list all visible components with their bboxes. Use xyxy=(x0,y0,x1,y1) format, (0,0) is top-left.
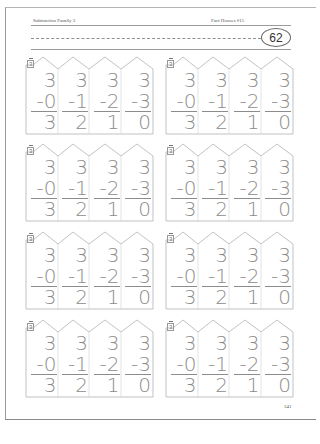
house-family-number: 3 xyxy=(167,235,174,243)
difference: 2 xyxy=(75,112,88,133)
house-family-number: 3 xyxy=(167,60,174,68)
house-family-number: 3 xyxy=(167,147,174,155)
difference: 3 xyxy=(184,287,197,308)
subtrahend: -1 xyxy=(202,266,228,287)
subtrahend: -3 xyxy=(265,91,291,112)
minuend: 3 xyxy=(75,245,88,266)
house-columns: 3 -0 3 3 -1 2 3 -2 1 3 -3 0 xyxy=(169,70,295,134)
house-family-tag: 3 xyxy=(27,145,34,155)
tag-bar-icon xyxy=(169,233,173,234)
subtraction-problem: 3 -0 3 xyxy=(29,333,61,397)
difference: 3 xyxy=(184,375,197,396)
page-number: 341 xyxy=(284,404,292,409)
subtrahend: -1 xyxy=(62,266,88,287)
subtraction-problem: 3 -2 1 xyxy=(232,245,264,309)
minuend: 3 xyxy=(247,70,260,91)
difference: 3 xyxy=(44,112,57,133)
tag-bar-icon xyxy=(29,145,33,146)
minuend: 3 xyxy=(184,70,197,91)
subtrahend: -0 xyxy=(171,354,197,375)
subtrahend: -0 xyxy=(31,178,57,199)
difference: 1 xyxy=(247,287,260,308)
house-columns: 3 -0 3 3 -1 2 3 -2 1 3 -3 0 xyxy=(169,245,295,309)
difference: 1 xyxy=(247,375,260,396)
subtrahend: -2 xyxy=(94,178,120,199)
minuend: 3 xyxy=(107,333,120,354)
fact-house: 3 3 -0 3 3 -1 2 3 -2 1 xyxy=(165,142,297,222)
difference: 2 xyxy=(215,287,228,308)
subtraction-problem: 3 -2 1 xyxy=(92,245,124,309)
house-family-number: 3 xyxy=(27,60,34,68)
minuend: 3 xyxy=(107,70,120,91)
worksheet-set-title: Fact Houses #15 xyxy=(211,18,244,23)
difference: 3 xyxy=(184,199,197,220)
minuend: 3 xyxy=(215,333,228,354)
difference: 0 xyxy=(138,112,151,133)
subtrahend: -2 xyxy=(94,266,120,287)
subtrahend: -3 xyxy=(125,266,151,287)
house-columns: 3 -0 3 3 -1 2 3 -2 1 3 -3 0 xyxy=(169,157,295,221)
subtraction-problem: 3 -0 3 xyxy=(169,157,201,221)
difference: 3 xyxy=(184,112,197,133)
subtraction-problem: 3 -1 2 xyxy=(61,245,93,309)
minuend: 3 xyxy=(247,333,260,354)
name-write-line xyxy=(31,38,261,39)
subtrahend: -3 xyxy=(265,354,291,375)
house-columns: 3 -0 3 3 -1 2 3 -2 1 3 -3 0 xyxy=(29,333,155,397)
subtrahend: -2 xyxy=(234,266,260,287)
minuend: 3 xyxy=(184,333,197,354)
fact-house: 3 3 -0 3 3 -1 2 3 -2 1 xyxy=(25,142,157,222)
fact-house: 3 3 -0 3 3 -1 2 3 -2 1 xyxy=(165,55,297,135)
subtraction-problem: 3 -3 0 xyxy=(264,333,296,397)
house-family-number: 3 xyxy=(27,147,34,155)
subtraction-problem: 3 -2 1 xyxy=(92,70,124,134)
subtraction-problem: 3 -1 2 xyxy=(201,157,233,221)
difference: 0 xyxy=(138,375,151,396)
difference: 3 xyxy=(44,287,57,308)
minuend: 3 xyxy=(44,157,57,178)
fact-house: 3 3 -0 3 3 -1 2 3 -2 1 xyxy=(25,318,157,398)
tag-bar-icon xyxy=(29,233,33,234)
subtrahend: -3 xyxy=(125,91,151,112)
difference: 1 xyxy=(107,199,120,220)
minuend: 3 xyxy=(75,157,88,178)
subtraction-problem: 3 -1 2 xyxy=(201,70,233,134)
subtraction-problem: 3 -3 0 xyxy=(124,245,156,309)
difference: 1 xyxy=(107,375,120,396)
subtrahend: -2 xyxy=(234,354,260,375)
subtraction-problem: 3 -3 0 xyxy=(124,333,156,397)
house-family-tag: 3 xyxy=(27,58,34,68)
fact-house: 3 3 -0 3 3 -1 2 3 -2 1 xyxy=(165,318,297,398)
subtraction-problem: 3 -0 3 xyxy=(169,70,201,134)
fact-house: 3 3 -0 3 3 -1 2 3 -2 1 xyxy=(25,55,157,135)
minuend: 3 xyxy=(138,333,151,354)
fact-house: 3 3 -0 3 3 -1 2 3 -2 1 xyxy=(25,230,157,310)
difference: 0 xyxy=(138,287,151,308)
subtraction-problem: 3 -3 0 xyxy=(264,157,296,221)
header-rule xyxy=(31,25,291,26)
subtrahend: -2 xyxy=(94,91,120,112)
difference: 0 xyxy=(278,199,291,220)
subtrahend: -1 xyxy=(202,91,228,112)
minuend: 3 xyxy=(107,157,120,178)
difference: 2 xyxy=(215,375,228,396)
minuend: 3 xyxy=(278,70,291,91)
minuend: 3 xyxy=(184,157,197,178)
difference: 3 xyxy=(44,199,57,220)
fact-house: 3 3 -0 3 3 -1 2 3 -2 1 xyxy=(165,230,297,310)
house-family-tag: 3 xyxy=(167,145,174,155)
house-family-number: 3 xyxy=(167,323,174,331)
subtraction-problem: 3 -2 1 xyxy=(92,157,124,221)
subtrahend: -1 xyxy=(202,354,228,375)
difference: 2 xyxy=(215,199,228,220)
difference: 2 xyxy=(75,375,88,396)
subtraction-problem: 3 -2 1 xyxy=(92,333,124,397)
minuend: 3 xyxy=(138,70,151,91)
minuend: 3 xyxy=(215,245,228,266)
subtraction-problem: 3 -0 3 xyxy=(169,245,201,309)
house-family-tag: 3 xyxy=(27,321,34,331)
house-columns: 3 -0 3 3 -1 2 3 -2 1 3 -3 0 xyxy=(29,245,155,309)
difference: 2 xyxy=(75,199,88,220)
subtraction-problem: 3 -3 0 xyxy=(124,70,156,134)
subtrahend: -1 xyxy=(62,178,88,199)
